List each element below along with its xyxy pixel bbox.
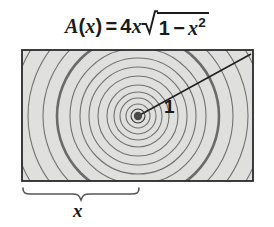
- radicand-exponent: 2: [198, 15, 206, 30]
- radius-label: 1: [164, 96, 175, 118]
- radicand-minus: −: [173, 17, 185, 39]
- formula-square-root: 1−x2: [142, 10, 209, 38]
- figure-container: A(x)=4x1−x2 1 x: [0, 0, 274, 227]
- center-dot: [134, 112, 142, 120]
- formula-coefficient-variable: x: [132, 15, 142, 37]
- radicand-first-term: 1: [159, 17, 170, 39]
- formula-equals: =: [105, 15, 117, 37]
- formula-paren-close: ): [96, 15, 103, 37]
- radicand: 1−x2: [157, 12, 209, 38]
- radical-sign-icon: [142, 10, 157, 34]
- formula-argument: x: [85, 15, 95, 37]
- formula-function-name: A: [65, 15, 79, 37]
- radicand-variable: x: [188, 17, 198, 39]
- formula-coefficient: 4: [120, 15, 131, 37]
- width-brace: [23, 188, 139, 200]
- area-formula: A(x)=4x1−x2: [0, 10, 274, 38]
- width-label: x: [73, 200, 83, 222]
